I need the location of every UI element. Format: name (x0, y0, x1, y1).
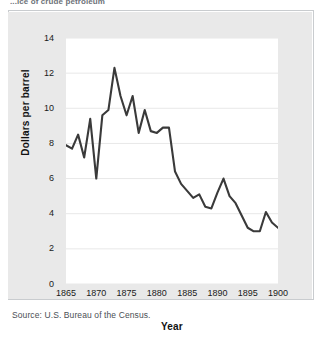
y-tick-label: 2 (28, 244, 54, 253)
x-axis-title: Year (66, 321, 278, 332)
y-axis-title: Dollars per barrel (20, 48, 31, 178)
y-tick-label: 14 (28, 34, 54, 43)
right-divider (313, 10, 314, 300)
line-chart-svg (66, 38, 278, 284)
bottom-divider (8, 299, 314, 300)
top-divider (8, 10, 314, 11)
chart-page: ...ice of crude petroleum 02468101214 Do… (0, 0, 320, 337)
petroleum-price-line (66, 68, 278, 231)
y-tick-label: 6 (28, 174, 54, 183)
plot-area: 18651870187518801885189018951900 Year (66, 38, 278, 284)
chart-panel: 02468101214 Dollars per barrel 186518701… (8, 12, 312, 299)
y-tick-label: 0 (28, 280, 54, 289)
source-note: Source: U.S. Bureau of the Census. (12, 310, 151, 320)
y-tick-label: 10 (28, 104, 54, 113)
x-tick-label: 1900 (258, 289, 298, 298)
y-tick-label: 8 (28, 139, 54, 148)
y-tick-label: 12 (28, 69, 54, 78)
clipped-chart-caption: ...ice of crude petroleum (10, 0, 310, 8)
y-tick-label: 4 (28, 209, 54, 218)
